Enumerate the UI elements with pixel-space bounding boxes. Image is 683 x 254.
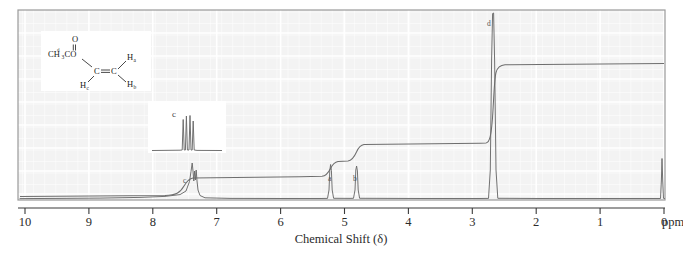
x-axis: 10 9 8 7 6 5 4 3 2 1 0 ppm — [18, 208, 683, 229]
x-tick-label-1: 1 — [597, 215, 603, 229]
x-tick-label-3: 3 — [469, 215, 475, 229]
peak-label-b: b — [353, 174, 357, 183]
x-tick-label-4: 4 — [405, 215, 412, 229]
x-axis-unit-label: ppm — [662, 215, 683, 229]
x-tick-label-9: 9 — [86, 215, 92, 229]
x-tick-label-8: 8 — [150, 215, 156, 229]
x-tick-label-5: 5 — [341, 215, 347, 229]
x-tick-label-10: 10 — [19, 215, 32, 229]
x-axis-title: Chemical Shift (δ) — [295, 232, 388, 246]
hydrogen-b-label: H — [127, 79, 133, 89]
x-tick-label-6: 6 — [277, 215, 283, 229]
structure-inset: O d CH 3 CO C C H a H b — [41, 31, 151, 91]
vinyl-carbon-right: C — [111, 66, 117, 76]
peak-label-d: d — [487, 19, 491, 28]
carbonyl-oxygen-label: O — [72, 34, 78, 44]
x-tick-label-2: 2 — [533, 215, 539, 229]
nmr-spectrum-figure: c a b d O d CH 3 CO C C H — [0, 0, 683, 254]
x-axis-ticks — [25, 208, 664, 214]
acetyl-formula-co: CO — [65, 49, 77, 59]
acetyl-formula-ch: CH — [48, 49, 60, 59]
hydrogen-a-label: H — [127, 52, 133, 62]
hydrogen-b-sub: b — [134, 84, 137, 90]
x-tick-label-7: 7 — [214, 215, 220, 229]
spectrum-canvas: c a b d O d CH 3 CO C C H — [0, 0, 683, 254]
hydrogen-c-label: H — [80, 80, 86, 90]
vinyl-carbon-left: C — [94, 66, 100, 76]
expansion-inset: c — [148, 101, 226, 153]
expansion-inset-label-c: c — [172, 109, 176, 119]
